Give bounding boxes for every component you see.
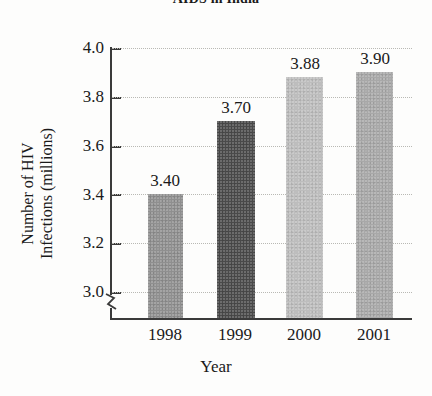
y-tick-label-3-4: 3.4 (62, 185, 104, 205)
y-axis-title-line-1: Number of HIV (19, 69, 38, 319)
y-axis-title: Number of HIV Infections (millions) (19, 69, 56, 319)
bar-2000[interactable] (286, 77, 323, 318)
bar-value-2001: 3.90 (335, 49, 415, 69)
x-tick-label-1998: 1998 (130, 325, 200, 345)
x-axis-line (110, 318, 412, 320)
bar-chart: AIDS in India Number of HIV Infections (… (0, 0, 432, 396)
y-tick-label-3-2: 3.2 (62, 233, 104, 253)
bar-1999[interactable] (217, 121, 255, 318)
x-axis-title: Year (0, 357, 432, 377)
y-axis-title-line-2: Infections (millions) (38, 69, 57, 319)
x-tick-label-2000: 2000 (269, 325, 339, 345)
y-tick-label-3-6: 3.6 (62, 136, 104, 156)
bar-value-2000: 3.88 (265, 54, 345, 74)
bar-1998[interactable] (148, 194, 183, 318)
bar-2001[interactable] (356, 72, 393, 318)
x-tick-label-2001: 2001 (339, 325, 409, 345)
y-tick-label-3-0: 3.0 (62, 282, 104, 302)
y-tick-label-4-0: 4.0 (62, 38, 104, 58)
bar-value-1999: 3.70 (196, 98, 276, 118)
x-tick-label-1999: 1999 (200, 325, 270, 345)
bar-value-1998: 3.40 (125, 171, 205, 191)
chart-title: AIDS in India (0, 0, 432, 7)
y-tick-label-3-8: 3.8 (62, 87, 104, 107)
